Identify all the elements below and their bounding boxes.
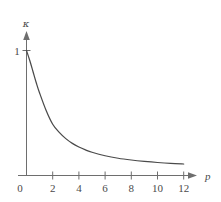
x-label-2: 2 xyxy=(50,182,56,194)
y-axis xyxy=(23,31,31,176)
y-axis-arrow-icon xyxy=(23,31,30,40)
kappa-decay-chart: 0 2 4 6 8 10 12 1 κ p xyxy=(0,0,221,202)
decay-curve xyxy=(27,51,184,165)
figure-container: 0 2 4 6 8 10 12 1 κ p xyxy=(0,0,221,202)
y-label-1: 1 xyxy=(14,45,20,57)
x-label-12: 12 xyxy=(178,182,189,194)
x-label-4: 4 xyxy=(76,182,82,194)
origin-label: 0 xyxy=(17,182,23,194)
x-label-10: 10 xyxy=(152,182,164,194)
x-axis-title: p xyxy=(204,170,211,182)
y-axis-title: κ xyxy=(22,18,30,29)
x-axis xyxy=(18,172,197,180)
x-label-8: 8 xyxy=(129,182,135,194)
x-axis-arrow-icon xyxy=(188,172,197,179)
x-label-6: 6 xyxy=(102,182,108,194)
